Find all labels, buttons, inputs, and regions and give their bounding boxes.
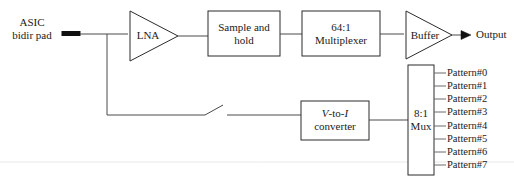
multiplexer-64-1-label-line1: 64:1 (302, 21, 380, 34)
pattern-label-2: Pattern#2 (447, 93, 487, 104)
output-arrow-icon (461, 31, 471, 40)
pattern-label-6: Pattern#6 (447, 146, 487, 157)
v-to-i-converter-label-line2: converter (301, 120, 369, 133)
mux-8-1-label-line1: 8:1 (406, 107, 436, 120)
multiplexer-64-1-label-line2: Multiplexer (302, 34, 380, 47)
v-to-i-symbol-i: I (344, 107, 348, 119)
asic-bidir-pad-marker (62, 32, 80, 36)
mux-8-1-label-line2: Mux (406, 120, 436, 133)
open-switch-blade[interactable] (205, 105, 223, 115)
pattern-label-0: Pattern#0 (447, 67, 487, 78)
v-to-i-connector: -to- (329, 107, 345, 119)
pattern-label-7: Pattern#7 (447, 159, 487, 170)
pattern-label-1: Pattern#1 (447, 80, 487, 91)
asic-bidir-pad-label-line2: bidir pad (0, 29, 64, 42)
buffer-label: Buffer (404, 29, 446, 42)
pattern-label-5: Pattern#5 (447, 133, 487, 144)
block-diagram-canvas: ASIC bidir pad LNA Sample and hold 64:1 … (0, 0, 514, 185)
sample-and-hold-label-line1: Sample and (208, 21, 280, 34)
lna-label: LNA (130, 29, 166, 42)
pattern-label-3: Pattern#3 (447, 106, 487, 117)
v-to-i-converter-label-line1: V-to-I (301, 107, 369, 120)
asic-bidir-pad-label-line1: ASIC (4, 16, 60, 29)
output-label: Output (476, 28, 507, 41)
sample-and-hold-label-line2: hold (208, 34, 280, 47)
v-to-i-symbol-v: V (322, 107, 329, 119)
pattern-label-4: Pattern#4 (447, 120, 487, 131)
